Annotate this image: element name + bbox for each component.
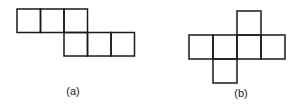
- square-cell: [64, 33, 88, 57]
- square-cell: [111, 33, 135, 57]
- square-cell: [41, 9, 65, 33]
- square-cell: [213, 59, 237, 83]
- figure-a-net: [17, 9, 135, 56]
- square-cell: [17, 9, 41, 33]
- square-cell: [237, 35, 261, 59]
- square-cell: [64, 9, 88, 33]
- square-cell: [213, 35, 237, 59]
- square-cell: [237, 11, 261, 35]
- square-cell: [261, 35, 285, 59]
- square-cell: [88, 33, 112, 57]
- square-cell: [189, 35, 213, 59]
- figure-b-label: (b): [234, 87, 247, 99]
- diagram-canvas: (a) (b): [0, 0, 299, 111]
- figure-a-label: (a): [66, 85, 79, 97]
- figure-b-net: [189, 11, 285, 83]
